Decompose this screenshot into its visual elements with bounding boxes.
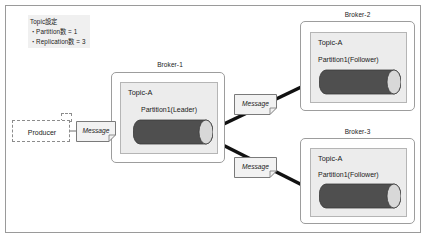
broker-3-topic-title: Topic-A (318, 154, 342, 163)
broker-3-label: Broker-3 (300, 128, 415, 135)
broker-1-label: Broker-1 (120, 61, 220, 68)
producer-box[interactable]: Producer (12, 120, 70, 142)
topic-settings-legend: Topic設定 ・Partition数 = 1 ・Replication数 = … (28, 15, 90, 48)
broker-1-partition-cylinder (133, 119, 213, 145)
broker-2-topic-box: Topic-A Partition1(Follower) (310, 32, 407, 103)
legend-line-partition: ・Partition数 = 1 (30, 27, 86, 37)
broker-2-label: Broker-2 (300, 11, 415, 18)
broker-3-box[interactable]: Topic-A Partition1(Follower) (300, 138, 415, 224)
broker-2-partition-cylinder (319, 69, 401, 95)
message-note-3-label: Message (234, 163, 277, 170)
diagram-canvas: Topic設定 ・Partition数 = 1 ・Replication数 = … (0, 0, 427, 239)
broker-2-partition-label: Partition1(Follower) (318, 56, 379, 63)
broker-1-topic-box: Topic-A Partition1(Leader) (120, 82, 218, 154)
legend-line-title: Topic設定 (30, 17, 86, 27)
message-note-2-label: Message (234, 100, 277, 107)
broker-1-partition-label: Partition1(Leader) (141, 106, 197, 113)
broker-3-topic-box: Topic-A Partition1(Follower) (310, 148, 407, 217)
broker-2-topic-title: Topic-A (318, 38, 342, 47)
broker-1-box[interactable]: Topic-A Partition1(Leader) (111, 72, 225, 163)
message-note-1-label: Message (76, 127, 116, 134)
producer-label: Producer (13, 121, 71, 143)
broker-3-partition-cylinder (319, 183, 401, 209)
broker-3-partition-label: Partition1(Follower) (318, 171, 379, 178)
broker-1-topic-title: Topic-A (128, 88, 152, 97)
broker-2-box[interactable]: Topic-A Partition1(Follower) (300, 21, 415, 111)
legend-line-replication: ・Replication数 = 3 (30, 37, 86, 47)
